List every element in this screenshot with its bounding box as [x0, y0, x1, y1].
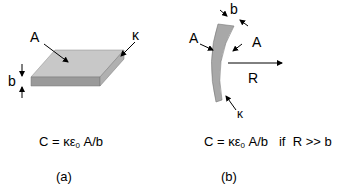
equation-b: C = κε0 A/b if R >> b [204, 135, 332, 150]
area-arrow-right-b [233, 44, 242, 51]
thickness-arrow-right-b [240, 20, 248, 26]
label-kappa-b: κ [237, 108, 243, 120]
thickness-arrow-left-b [220, 10, 227, 16]
label-area-left-b: A [189, 31, 198, 45]
label-area-a: A [30, 30, 39, 44]
label-radius-b: R [248, 71, 258, 85]
kappa-arrow-a [121, 42, 135, 56]
label-kappa-a: κ [132, 28, 139, 42]
equation-a: C = κε0 A/b [39, 135, 103, 150]
area-arrow-left-b [200, 44, 213, 50]
caption-a: (a) [56, 170, 72, 183]
kappa-arrow-b [226, 96, 236, 110]
diagram-graphics [0, 0, 348, 194]
caption-b: (b) [221, 170, 237, 183]
label-thickness-b: b [230, 2, 238, 16]
label-area-right-b: A [252, 35, 261, 49]
label-thickness-a: b [8, 74, 16, 88]
flat-capacitor-slab [31, 50, 124, 86]
